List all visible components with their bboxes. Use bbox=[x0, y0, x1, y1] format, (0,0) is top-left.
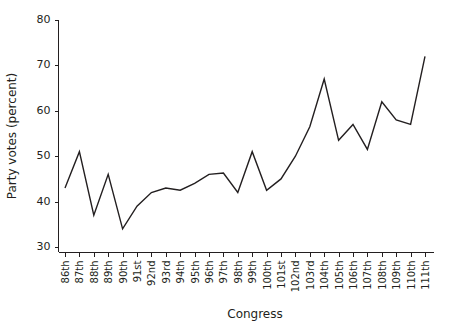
x-tick-label: 109th bbox=[391, 261, 402, 290]
party-votes-line bbox=[65, 56, 425, 229]
x-tick-label: 89th bbox=[103, 261, 114, 284]
y-axis: 304050607080 bbox=[37, 13, 59, 253]
x-tick-label: 90th bbox=[118, 261, 129, 284]
chart-svg: 304050607080 86th87th88th89th90th91st92n… bbox=[0, 0, 451, 324]
y-tick-label: 70 bbox=[37, 58, 51, 71]
x-tick-label: 94th bbox=[175, 261, 186, 284]
x-tick-label: 102nd bbox=[290, 261, 301, 293]
x-axis-title: Congress bbox=[227, 307, 283, 321]
y-tick-label: 50 bbox=[37, 149, 51, 162]
x-tick-label: 96th bbox=[204, 261, 215, 284]
x-tick-label: 92nd bbox=[146, 261, 157, 286]
x-tick-label: 111th bbox=[420, 261, 431, 290]
x-tick-label: 108th bbox=[377, 261, 388, 290]
y-tick-label: 60 bbox=[37, 104, 51, 117]
x-tick-label: 88th bbox=[89, 261, 100, 284]
x-tick-label: 105th bbox=[334, 261, 345, 290]
x-tick-label: 93rd bbox=[161, 261, 172, 284]
x-axis: 86th87th88th89th90th91st92nd93rd94th95th… bbox=[59, 253, 435, 293]
x-tick-label: 110th bbox=[406, 261, 417, 290]
x-tick-group: 86th87th88th89th90th91st92nd93rd94th95th… bbox=[60, 253, 431, 293]
x-tick-label: 87th bbox=[74, 261, 85, 284]
x-tick-label: 103rd bbox=[305, 261, 316, 290]
x-tick-label: 91st bbox=[132, 260, 143, 282]
x-tick-label: 86th bbox=[60, 261, 71, 284]
data-series-group bbox=[65, 56, 425, 229]
y-tick-label: 40 bbox=[37, 195, 51, 208]
line-chart: 304050607080 86th87th88th89th90th91st92n… bbox=[0, 0, 451, 324]
x-tick-label: 98th bbox=[233, 261, 244, 284]
y-tick-group: 304050607080 bbox=[37, 13, 59, 253]
y-tick-label: 30 bbox=[37, 240, 51, 253]
x-tick-label: 104th bbox=[319, 261, 330, 290]
x-tick-label: 100th bbox=[262, 261, 273, 290]
y-tick-label: 80 bbox=[37, 13, 51, 26]
x-tick-label: 107th bbox=[362, 261, 373, 290]
y-axis-title: Party votes (percent) bbox=[5, 73, 19, 200]
x-tick-label: 95th bbox=[190, 261, 201, 284]
x-tick-label: 97th bbox=[218, 261, 229, 284]
x-tick-label: 106th bbox=[348, 261, 359, 290]
x-tick-label: 101st bbox=[276, 260, 287, 288]
x-tick-label: 99th bbox=[247, 261, 258, 284]
